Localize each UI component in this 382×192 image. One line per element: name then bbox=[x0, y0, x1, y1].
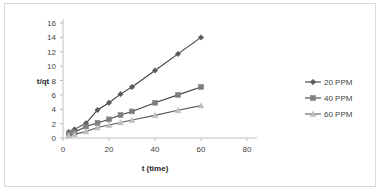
y-axis-tick-label: 14 bbox=[47, 33, 56, 42]
x-axis-tick-label: 60 bbox=[197, 145, 206, 154]
legend-label: 60 PPM bbox=[324, 110, 353, 119]
y-axis-tick-label: 4 bbox=[52, 105, 57, 114]
x-axis-title: t (time) bbox=[142, 164, 169, 173]
x-axis-tick-label: 40 bbox=[151, 145, 160, 154]
x-axis-tick-label: 20 bbox=[105, 145, 114, 154]
series-40-ppm bbox=[66, 85, 203, 137]
data-point bbox=[107, 117, 112, 122]
legend-marker bbox=[310, 79, 315, 84]
legend-item-40-ppm[interactable]: 40 PPM bbox=[305, 94, 353, 103]
series-60-ppm bbox=[66, 103, 204, 138]
data-point bbox=[130, 109, 135, 114]
y-axis-tick-label: 16 bbox=[47, 19, 56, 28]
legend-label: 40 PPM bbox=[324, 94, 353, 103]
y-axis-title: t/qt bbox=[37, 77, 50, 86]
data-point bbox=[118, 113, 123, 118]
y-axis-tick-label: 10 bbox=[47, 62, 56, 71]
y-axis-tick-label: 2 bbox=[52, 120, 57, 129]
plot-area: 0246810121416020406080t/qtt (time)20 PPM… bbox=[5, 4, 377, 188]
y-axis-tick-label: 6 bbox=[52, 91, 57, 100]
x-axis-tick-label: 80 bbox=[243, 145, 252, 154]
legend-item-60-ppm[interactable]: 60 PPM bbox=[305, 110, 353, 119]
legend-label: 20 PPM bbox=[324, 78, 353, 87]
y-axis-tick-label: 12 bbox=[47, 48, 56, 57]
line-chart: 0246810121416020406080t/qtt (time)20 PPM… bbox=[5, 4, 377, 188]
data-point bbox=[153, 100, 158, 105]
legend-marker bbox=[311, 96, 316, 101]
data-point bbox=[176, 92, 181, 97]
y-axis-tick-label: 0 bbox=[52, 134, 57, 143]
chart-container: 0246810121416020406080t/qtt (time)20 PPM… bbox=[4, 3, 376, 187]
data-point bbox=[199, 85, 204, 90]
x-axis-tick-label: 0 bbox=[61, 145, 66, 154]
data-point bbox=[198, 103, 204, 108]
legend-item-20-ppm[interactable]: 20 PPM bbox=[305, 78, 353, 87]
y-axis-tick-label: 8 bbox=[52, 77, 57, 86]
series-line bbox=[69, 37, 201, 132]
